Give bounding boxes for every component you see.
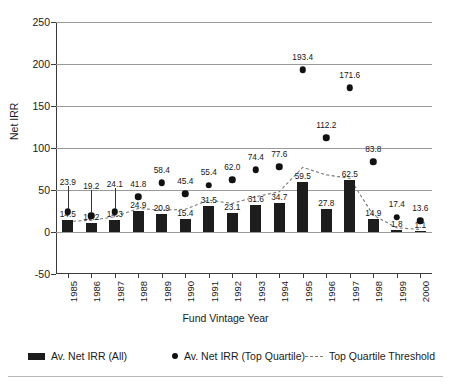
bar-1985 xyxy=(62,220,73,232)
x-axis-tick-label: 1987 xyxy=(115,281,126,302)
bar-value-label-1991: 31.5 xyxy=(201,196,217,204)
y-axis-tick xyxy=(51,232,56,233)
data-point-label-2000: 13.6 xyxy=(412,204,428,212)
bar-1996 xyxy=(321,209,332,232)
x-axis-tick-label: 1996 xyxy=(326,281,337,302)
x-axis-tick xyxy=(162,274,163,278)
bar-value-label-1988: 24.9 xyxy=(130,201,146,209)
x-axis-tick-label: 1991 xyxy=(209,281,220,302)
data-point-1992 xyxy=(229,177,236,184)
bar-1994 xyxy=(274,203,285,232)
gridline xyxy=(56,190,432,191)
data-point-1993 xyxy=(253,166,260,173)
x-axis-tick-label: 2000 xyxy=(420,281,431,302)
y-axis-tick-label: -50 xyxy=(35,269,50,280)
bar-value-label-1992: 23.1 xyxy=(224,203,240,211)
data-point-label-1999: 17.4 xyxy=(389,200,405,208)
x-axis-tick xyxy=(397,274,398,278)
plot-area: 250200150100500-501985198619871988198919… xyxy=(56,22,432,274)
x-axis-tick-label: 1985 xyxy=(68,281,79,302)
x-axis-tick xyxy=(303,274,304,278)
y-axis-tick-label: 0 xyxy=(44,227,50,238)
data-point-label-1989: 58.4 xyxy=(154,166,170,174)
data-point-label-1996: 112.2 xyxy=(316,121,336,129)
data-point-1997 xyxy=(347,85,354,92)
bar-1998 xyxy=(368,219,379,232)
x-axis-tick-label: 1998 xyxy=(373,281,384,302)
dot-marker-icon xyxy=(172,353,178,359)
gridline xyxy=(56,106,432,107)
legend-item-all: Av. Net IRR (All) xyxy=(28,350,127,362)
x-axis-tick xyxy=(326,274,327,278)
data-point-1987 xyxy=(112,209,119,216)
bar-1990 xyxy=(180,219,191,232)
y-axis-tick xyxy=(51,22,56,23)
bar-1991 xyxy=(203,206,214,232)
y-axis-tick-label: 200 xyxy=(32,59,50,70)
x-axis-tick-label: 1986 xyxy=(91,281,102,302)
data-point-2000 xyxy=(417,217,424,224)
y-axis-tick xyxy=(51,190,56,191)
data-point-1994 xyxy=(276,164,283,171)
data-point-1996 xyxy=(323,135,330,142)
gridline xyxy=(56,232,432,233)
bar-1989 xyxy=(156,214,167,232)
data-point-label-1997: 171.6 xyxy=(339,71,360,79)
x-axis-tick xyxy=(232,274,233,278)
bar-value-label-1993: 31.6 xyxy=(248,195,264,203)
y-axis-tick xyxy=(51,148,56,149)
data-point-label-1998: 83.8 xyxy=(365,145,381,153)
leader-line-1985 xyxy=(68,186,69,209)
data-point-label-1994: 77.6 xyxy=(271,150,287,158)
data-point-1995 xyxy=(300,66,307,73)
dashed-line-marker-icon xyxy=(305,356,323,357)
y-axis-tick xyxy=(51,106,56,107)
x-axis-tick-label: 1999 xyxy=(397,281,408,302)
bar-1995 xyxy=(297,182,308,232)
bar-marker-icon xyxy=(28,353,45,360)
x-axis-tick xyxy=(373,274,374,278)
bar-value-label-1998: 14.9 xyxy=(365,209,381,217)
data-point-label-1990: 45.4 xyxy=(177,177,193,185)
x-axis-tick-label: 1992 xyxy=(232,281,243,302)
x-axis-tick xyxy=(115,274,116,278)
bar-value-label-1997: 62.5 xyxy=(342,170,358,178)
gridline xyxy=(56,22,432,23)
footer-divider xyxy=(8,376,443,377)
data-point-1986 xyxy=(88,213,95,220)
data-point-1999 xyxy=(394,214,401,221)
data-point-1991 xyxy=(206,182,213,189)
leader-line-1986 xyxy=(91,190,92,213)
data-point-label-1993: 74.4 xyxy=(248,153,264,161)
x-axis-tick-label: 1988 xyxy=(138,281,149,302)
x-axis-tick xyxy=(91,274,92,278)
bar-value-label-1995: 59.5 xyxy=(295,172,311,180)
bar-1988 xyxy=(133,211,144,232)
x-axis-tick-label: 1995 xyxy=(303,281,314,302)
legend-item-threshold: Top Quartile Threshold xyxy=(305,350,435,362)
x-axis-line xyxy=(56,273,432,274)
bar-1992 xyxy=(227,213,238,232)
x-axis-tick xyxy=(185,274,186,278)
data-point-1988 xyxy=(135,194,142,201)
x-axis-tick-label: 1993 xyxy=(256,281,267,302)
x-axis-tick-label: 1990 xyxy=(185,281,196,302)
y-axis-tick xyxy=(51,274,56,275)
leader-line-1987 xyxy=(115,188,116,209)
legend-label-threshold: Top Quartile Threshold xyxy=(329,350,435,362)
legend-label-all: Av. Net IRR (All) xyxy=(51,350,127,362)
y-axis-tick-label: 250 xyxy=(32,17,50,28)
data-point-1989 xyxy=(159,180,166,187)
y-axis-tick-label: 50 xyxy=(38,185,50,196)
x-axis-tick xyxy=(350,274,351,278)
x-axis-tick xyxy=(138,274,139,278)
x-axis-title: Fund Vintage Year xyxy=(0,312,451,324)
gridline xyxy=(56,64,432,65)
x-axis-tick xyxy=(209,274,210,278)
bar-1986 xyxy=(86,223,97,232)
bar-2000 xyxy=(415,231,426,232)
data-point-1990 xyxy=(182,191,189,198)
y-axis-tick-label: 150 xyxy=(32,101,50,112)
data-point-label-1991: 55.4 xyxy=(201,168,217,176)
chart-container: Net IRR Fund Vintage Year 25020015010050… xyxy=(0,0,451,389)
